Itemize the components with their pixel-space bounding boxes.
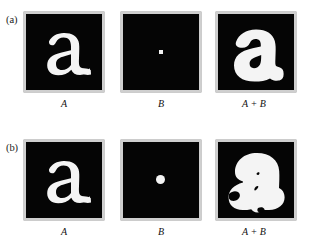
panel-a-row-a bbox=[24, 12, 104, 92]
panel-aplusb-row-a bbox=[216, 12, 296, 92]
letter-a-dilated-small-glyph bbox=[218, 14, 294, 90]
panel-a-row-b bbox=[24, 140, 104, 220]
dilation-figure: (a) bbox=[0, 0, 325, 247]
caption-aplusb-row-b: A + B bbox=[214, 226, 294, 238]
caption-b-row-b: B bbox=[121, 226, 201, 238]
figure-row-a: (a) bbox=[0, 8, 325, 126]
panel-image-a-row-a bbox=[26, 14, 102, 90]
row-label-a: (a) bbox=[6, 14, 17, 25]
panel-b-row-a bbox=[121, 12, 201, 92]
letter-a-dilated-large-glyph bbox=[218, 142, 294, 218]
caption-a-row-b: A bbox=[24, 226, 104, 238]
structuring-element-round-dot bbox=[156, 175, 165, 184]
letter-a-glyph bbox=[26, 14, 102, 90]
panel-image-aplusb-row-a bbox=[218, 14, 294, 90]
panel-aplusb-row-b bbox=[216, 140, 296, 220]
caption-a-row-a: A bbox=[24, 98, 104, 110]
structuring-element-square-dot bbox=[159, 50, 163, 54]
panel-image-b-row-a bbox=[123, 14, 199, 90]
panel-b-row-b bbox=[121, 140, 201, 220]
panel-image-b-row-b bbox=[123, 142, 199, 218]
panel-image-aplusb-row-b bbox=[218, 142, 294, 218]
letter-a-glyph bbox=[26, 142, 102, 218]
figure-row-b: (b) bbox=[0, 136, 325, 247]
panel-image-a-row-b bbox=[26, 142, 102, 218]
caption-aplusb-row-a: A + B bbox=[214, 98, 294, 110]
caption-b-row-a: B bbox=[121, 98, 201, 110]
row-label-b: (b) bbox=[6, 142, 18, 153]
